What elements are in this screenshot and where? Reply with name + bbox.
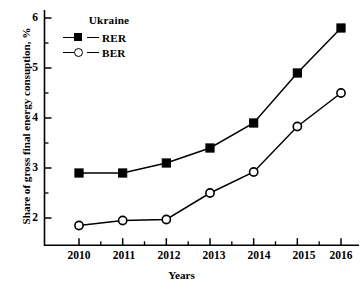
legend-entry-label: BER [102, 47, 126, 59]
x-axis-ticks [79, 238, 341, 245]
chart-figure: Share of gross final energy consuption, … [0, 0, 363, 297]
y-tick-label: 5 [20, 62, 38, 74]
legend-entry-ber: BER [62, 45, 168, 60]
y-tick-label: 2 [20, 212, 38, 224]
data-point-rer [250, 119, 258, 127]
y-tick-label: 6 [20, 12, 38, 24]
chart-legend: Ukraine RER BER [62, 14, 168, 60]
series-line-ber [79, 93, 341, 226]
data-point-rer [293, 69, 301, 77]
y-tick-label: 3 [20, 162, 38, 174]
legend-entry-label: RER [102, 32, 126, 44]
data-point-rer [75, 169, 83, 177]
legend-entry-rer: RER [62, 30, 168, 45]
data-point-rer [337, 24, 345, 32]
x-tick-label: 2010 [57, 250, 101, 262]
y-axis-tick-labels: 6 5 4 3 2 [12, 0, 38, 297]
x-tick-label: 2012 [147, 250, 191, 262]
data-point-rer [206, 144, 214, 152]
data-point-rer [119, 169, 127, 177]
data-point-ber [162, 215, 170, 223]
data-point-rer [162, 159, 170, 167]
x-tick-label: 2011 [102, 250, 146, 262]
y-tick-label: 4 [20, 112, 38, 124]
data-point-ber [337, 89, 345, 97]
data-point-ber [250, 168, 258, 176]
data-point-ber [119, 216, 127, 224]
x-axis-title: Years [0, 269, 363, 281]
filled-square-icon [62, 31, 100, 45]
data-point-ber [75, 221, 83, 229]
y-axis-ticks [45, 18, 52, 218]
open-circle-icon [62, 46, 100, 60]
data-point-ber [293, 122, 301, 130]
legend-title: Ukraine [66, 14, 152, 26]
data-point-ber [206, 189, 214, 197]
x-tick-label: 2014 [237, 250, 281, 262]
x-tick-label: 2016 [319, 250, 363, 262]
x-tick-label: 2013 [192, 250, 236, 262]
